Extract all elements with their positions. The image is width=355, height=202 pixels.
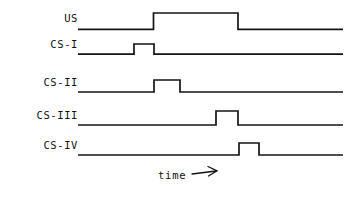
waveform-cs-iv [78,143,343,155]
x-axis-caption: time [158,169,187,181]
waveform-cs-i [78,44,343,54]
waveform-us [78,13,343,29]
waveform-cs-iii [78,111,343,125]
waveform-cs-ii [78,80,343,92]
right-arrow-icon [192,167,217,177]
timing-diagram: US CS-I CS-II CS-III CS-IV time [0,0,355,202]
